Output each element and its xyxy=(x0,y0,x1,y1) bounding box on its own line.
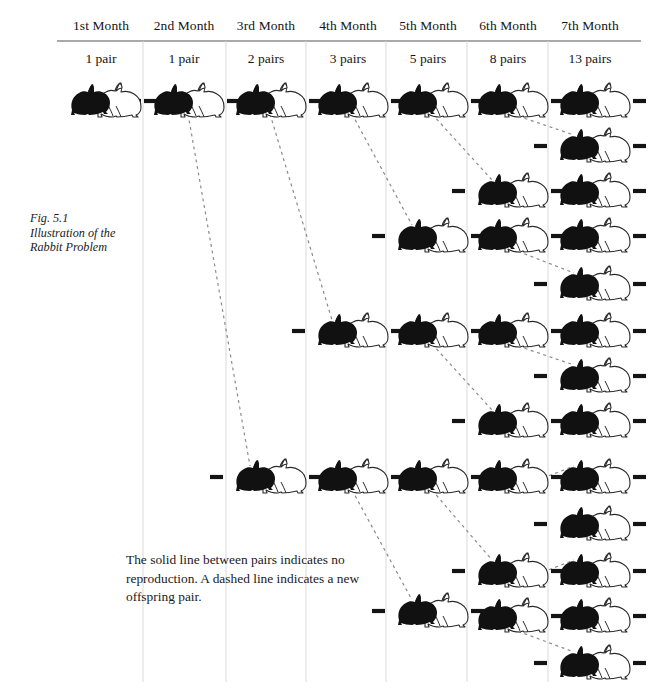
dark-rabbit-icon xyxy=(398,314,437,345)
pair-count-label-6: 8 pairs xyxy=(463,51,553,67)
dark-rabbit-icon xyxy=(560,314,599,345)
dark-rabbit-icon xyxy=(398,460,437,491)
rabbit-pair xyxy=(318,459,388,493)
rabbit-pair xyxy=(398,218,468,252)
pair-count-label-7: 13 pairs xyxy=(545,51,635,67)
rabbit-pair xyxy=(560,506,630,540)
rabbit-pair xyxy=(560,553,630,587)
rabbit-pair xyxy=(154,83,224,117)
dark-rabbit-icon xyxy=(560,359,599,390)
dark-rabbit-icon xyxy=(560,219,599,250)
dark-rabbit-icon xyxy=(398,594,437,625)
rabbit-pair xyxy=(236,83,306,117)
dashed-offspring-line xyxy=(512,249,574,273)
rabbit-pair xyxy=(560,459,630,493)
dark-rabbit-icon xyxy=(71,84,110,115)
rabbit-pair xyxy=(560,598,630,632)
dark-rabbit-icon xyxy=(560,129,599,160)
rabbit-pair xyxy=(560,83,630,117)
dark-rabbit-icon xyxy=(560,507,599,538)
dark-rabbit-icon xyxy=(236,84,275,115)
dark-rabbit-icon xyxy=(560,460,599,491)
rabbit-pair xyxy=(398,459,468,493)
figure-caption-line-1: Fig. 5.1 xyxy=(30,211,150,226)
pair-count-label-2: 1 pair xyxy=(139,51,229,67)
dark-rabbit-icon xyxy=(478,599,517,630)
dark-rabbit-icon xyxy=(318,460,357,491)
rabbit-pair xyxy=(560,403,630,437)
rabbit-pair xyxy=(478,83,548,117)
dashed-offspring-line xyxy=(188,114,250,466)
rabbit-pair xyxy=(560,173,630,207)
dark-rabbit-icon xyxy=(398,219,437,250)
dashed-offspring-line xyxy=(352,114,412,225)
dark-rabbit-icon xyxy=(478,404,517,435)
legend-note: The solid line between pairs indicates n… xyxy=(126,551,388,607)
rabbit-pair xyxy=(478,598,548,632)
month-label-5: 5th Month xyxy=(383,18,473,34)
rabbit-pair xyxy=(478,553,548,587)
dark-rabbit-icon xyxy=(478,554,517,585)
dark-rabbit-icon xyxy=(560,599,599,630)
rabbit-problem-figure: 1st Month2nd Month3rd Month4th Month5th … xyxy=(0,0,654,692)
dark-rabbit-icon xyxy=(560,646,599,677)
dashed-offspring-line xyxy=(270,114,332,320)
dark-rabbit-icon xyxy=(478,219,517,250)
dashed-offspring-line xyxy=(432,344,492,410)
month-label-3: 3rd Month xyxy=(221,18,311,34)
rabbit-pair xyxy=(236,459,306,493)
dark-rabbit-icon xyxy=(560,84,599,115)
rabbit-pair xyxy=(71,83,141,117)
rabbit-pair xyxy=(478,313,548,347)
rabbit-pair xyxy=(560,128,630,162)
dark-rabbit-icon xyxy=(560,554,599,585)
rabbit-pair xyxy=(478,403,548,437)
rabbit-pair xyxy=(398,313,468,347)
rabbit-pair xyxy=(318,83,388,117)
rabbit-pair xyxy=(478,173,548,207)
rabbit-pair xyxy=(560,218,630,252)
dark-rabbit-icon xyxy=(478,174,517,205)
dark-rabbit-icon xyxy=(318,84,357,115)
pair-count-label-1: 1 pair xyxy=(56,51,146,67)
pair-count-label-3: 2 pairs xyxy=(221,51,311,67)
month-label-6: 6th Month xyxy=(463,18,553,34)
dashed-offspring-line xyxy=(432,490,492,560)
month-label-4: 4th Month xyxy=(303,18,393,34)
dark-rabbit-icon xyxy=(560,267,599,298)
dark-rabbit-icon xyxy=(478,84,517,115)
dark-rabbit-icon xyxy=(560,404,599,435)
figure-caption-line-2: Illustration of the xyxy=(30,226,150,241)
rabbit-pair xyxy=(560,266,630,300)
dark-rabbit-icon xyxy=(154,84,193,115)
rabbit-pair xyxy=(318,313,388,347)
rabbit-pair xyxy=(478,459,548,493)
month-label-7: 7th Month xyxy=(545,18,635,34)
pair-count-label-5: 5 pairs xyxy=(383,51,473,67)
pair-count-label-4: 3 pairs xyxy=(303,51,393,67)
month-label-2: 2nd Month xyxy=(139,18,229,34)
dark-rabbit-icon xyxy=(318,314,357,345)
figure-caption-line-3: Rabbit Problem xyxy=(30,240,150,255)
month-label-1: 1st Month xyxy=(56,18,146,34)
rabbit-pair xyxy=(560,358,630,392)
rabbit-pair xyxy=(478,218,548,252)
dark-rabbit-icon xyxy=(478,460,517,491)
dark-rabbit-icon xyxy=(560,174,599,205)
dashed-offspring-line xyxy=(432,114,492,180)
rabbit-pair xyxy=(560,313,630,347)
figure-caption: Fig. 5.1 Illustration of the Rabbit Prob… xyxy=(30,211,150,255)
dark-rabbit-icon xyxy=(478,314,517,345)
rabbit-pair xyxy=(398,593,468,627)
rabbit-pair xyxy=(398,83,468,117)
dark-rabbit-icon xyxy=(398,84,437,115)
dark-rabbit-icon xyxy=(236,460,275,491)
